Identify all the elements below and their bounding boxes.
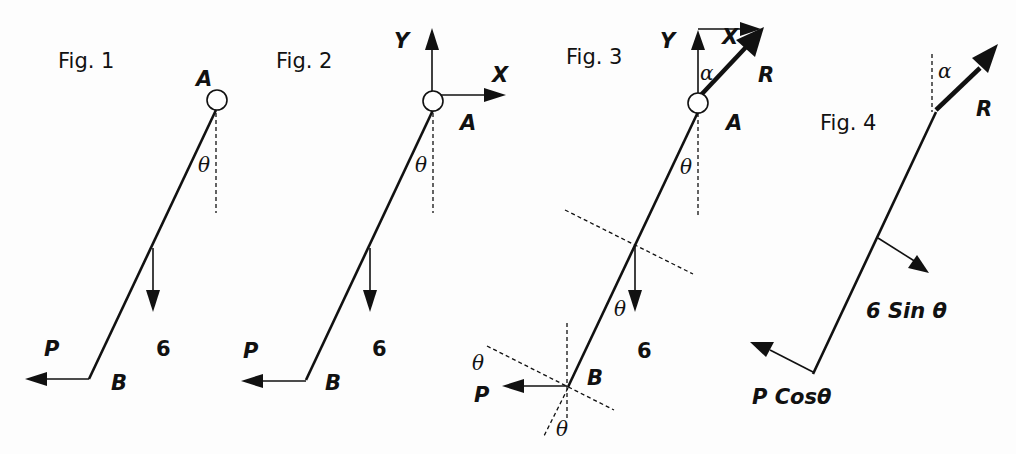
figure-3: Fig. 3 Y X R α A θ θ 6 θ P B θ — [472, 22, 774, 441]
label-pin-a: A — [458, 111, 476, 135]
force-component-label: P Cosθ — [752, 385, 831, 409]
weight-component-label: 6 Sin θ — [866, 299, 947, 323]
angle-theta: θ — [415, 153, 427, 177]
pin-support-a — [688, 93, 708, 113]
rod-ab — [306, 110, 433, 380]
force-p-label: P — [474, 383, 490, 407]
arrowhead-diagonal-icon — [972, 44, 998, 73]
figure-4: Fig. 4 α R 6 Sin θ P Cosθ — [750, 44, 998, 409]
figure-2: Fig. 2 Y X A θ 6 P B — [241, 28, 510, 395]
figure-1: Fig. 1 A θ 6 P B — [25, 49, 227, 395]
force-p-label: P — [44, 337, 60, 361]
angle-alpha: α — [700, 61, 714, 85]
arrowhead-down-icon — [628, 290, 642, 312]
weight-label: 6 — [156, 337, 171, 361]
arrowhead-down-icon — [363, 290, 377, 312]
angle-theta-bottom: θ — [556, 417, 568, 441]
arrowhead-up-icon — [691, 30, 705, 50]
reaction-r-label: R — [976, 97, 992, 121]
force-component-arrow — [770, 350, 813, 372]
x-axis-label: X — [720, 25, 740, 49]
angle-theta-p: θ — [472, 351, 484, 375]
perpendicular-reference-line — [565, 210, 693, 274]
y-axis-label: Y — [660, 29, 677, 53]
y-axis-label: Y — [394, 29, 411, 53]
weight-component-arrow — [878, 238, 916, 262]
angle-theta: θ — [198, 153, 210, 177]
figure-title: Fig. 2 — [276, 49, 332, 73]
label-end-b: B — [325, 371, 341, 395]
label-end-b: B — [587, 366, 603, 390]
arrowhead-right-icon — [484, 88, 506, 102]
arrowhead-diagonal-icon — [908, 255, 929, 273]
weight-label: 6 — [372, 337, 387, 361]
angle-theta-weight: θ — [614, 297, 626, 321]
x-axis-label: X — [490, 63, 510, 87]
arrowhead-left-icon — [25, 372, 47, 386]
label-end-b: B — [111, 371, 127, 395]
label-pin-a: A — [194, 67, 212, 91]
figure-title: Fig. 1 — [58, 49, 114, 73]
figure-title: Fig. 3 — [566, 45, 622, 69]
pin-support-a — [423, 91, 443, 111]
arrowhead-up-icon — [425, 28, 439, 50]
label-pin-a: A — [724, 111, 742, 135]
rod-ab — [89, 110, 216, 379]
rod-ab — [813, 112, 936, 374]
figure-title: Fig. 4 — [820, 111, 876, 135]
weight-label: 6 — [637, 339, 652, 363]
angle-theta-top: θ — [680, 155, 692, 179]
free-body-diagrams: Fig. 1 A θ 6 P B Fig. 2 Y X A θ 6 P — [0, 0, 1016, 454]
arrowhead-left-icon — [502, 379, 524, 393]
force-p-label: P — [243, 339, 259, 363]
pin-support-a — [207, 90, 227, 110]
arrowhead-down-icon — [146, 290, 160, 312]
angle-alpha: α — [938, 59, 952, 83]
rod-ab — [568, 112, 698, 387]
reaction-r-label: R — [758, 63, 774, 87]
arrowhead-left-icon — [241, 374, 263, 388]
